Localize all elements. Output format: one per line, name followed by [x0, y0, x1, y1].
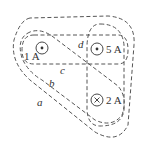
loop-d: [87, 24, 124, 126]
current-5a: 5 A: [91, 43, 122, 55]
current-5a-label: 5 A: [106, 43, 122, 55]
loop-a-label: a: [37, 96, 43, 108]
current-2a: 2 A: [91, 94, 122, 106]
loop-a: [13, 16, 134, 137]
loop-c-label: c: [60, 64, 65, 76]
current-1a-label: 1 A: [24, 50, 40, 62]
loop-d-label: d: [78, 38, 84, 50]
current-1a: 1 A: [24, 42, 48, 62]
loop-b-label: b: [49, 77, 55, 89]
current-2a-label: 2 A: [106, 94, 122, 106]
ampere-loop-diagram: 1 A 5 A 2 A a b c d: [0, 0, 145, 146]
